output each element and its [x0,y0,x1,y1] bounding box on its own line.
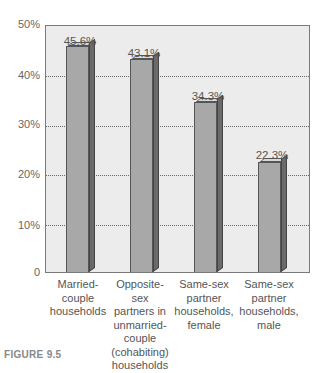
x-label: Same-sex partner households, male [237,278,301,332]
y-tick-50: 50% [0,18,40,30]
bar-married-couple [66,46,89,272]
y-tick-30: 30% [0,118,40,130]
value-label: 43.1% [114,47,174,59]
y-tick-10: 10% [0,219,40,231]
y-tick-20: 20% [0,168,40,180]
x-label: Same-sex partner households, female [172,278,236,332]
x-label: Married- couple households [46,278,110,319]
plot-area: 45.6% 43.1% 34.3% 22.3% [45,25,310,273]
bar-opposite-sex-cohabiting [130,59,153,272]
value-label: 45.6% [50,35,110,47]
x-label: Opposite-sex partners in unmarried- coup… [108,278,172,373]
bar-same-sex-male [258,162,281,272]
value-label: 34.3% [178,90,238,102]
bar-same-sex-female [194,102,217,272]
value-label: 22.3% [242,149,302,161]
figure-caption: FIGURE 9.5 [4,349,61,360]
y-tick-40: 40% [0,69,40,81]
y-tick-0: 0 [0,266,40,278]
